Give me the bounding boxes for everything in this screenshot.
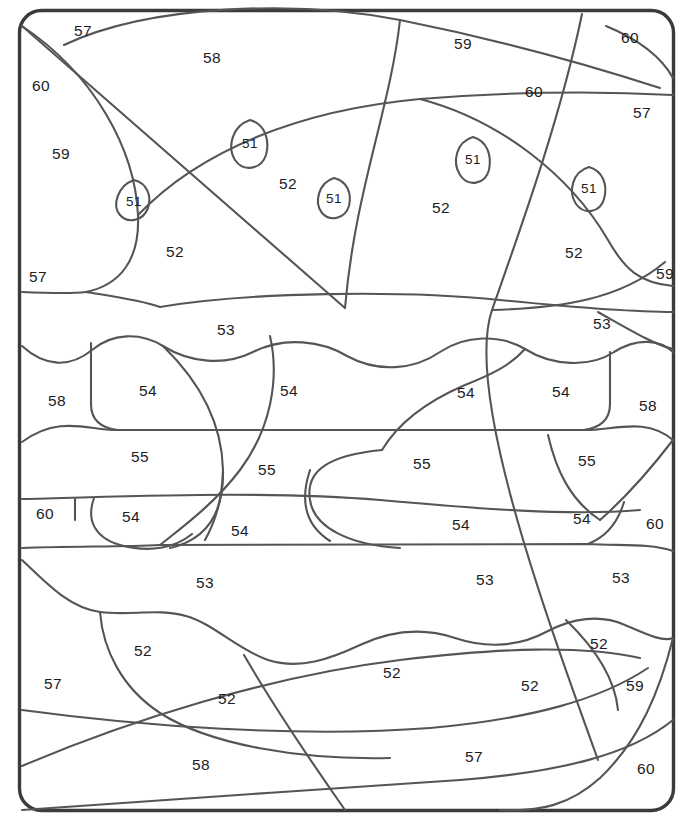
region-number-53-37: 53 bbox=[196, 574, 214, 592]
region-number-54-33: 54 bbox=[231, 522, 249, 540]
region-number-59-7: 59 bbox=[52, 145, 70, 163]
region-number-52-40: 52 bbox=[134, 642, 152, 660]
region-number-53-38: 53 bbox=[476, 571, 494, 589]
region-number-55-30: 55 bbox=[578, 452, 596, 470]
region-number-52-44: 52 bbox=[218, 690, 236, 708]
artboard bbox=[0, 0, 693, 821]
region-number-52-15: 52 bbox=[166, 243, 184, 261]
region-number-53-19: 53 bbox=[217, 321, 235, 339]
region-number-51-13: 51 bbox=[126, 194, 142, 209]
region-number-59-18: 59 bbox=[656, 265, 674, 283]
region-number-54-24: 54 bbox=[457, 384, 475, 402]
region-number-59-2: 59 bbox=[454, 35, 472, 53]
region-number-57-0: 57 bbox=[74, 22, 92, 40]
region-number-60-3: 60 bbox=[621, 29, 639, 47]
region-number-57-17: 57 bbox=[29, 268, 47, 286]
region-number-55-28: 55 bbox=[258, 461, 276, 479]
region-number-51-9: 51 bbox=[465, 152, 481, 167]
region-number-60-36: 60 bbox=[646, 515, 664, 533]
region-number-52-16: 52 bbox=[565, 244, 583, 262]
region-number-55-27: 55 bbox=[131, 448, 149, 466]
region-number-52-42: 52 bbox=[383, 664, 401, 682]
region-number-52-14: 52 bbox=[432, 199, 450, 217]
region-number-57-6: 57 bbox=[633, 104, 651, 122]
region-number-54-25: 54 bbox=[552, 383, 570, 401]
region-number-54-32: 54 bbox=[122, 508, 140, 526]
region-number-60-31: 60 bbox=[36, 505, 54, 523]
line-art bbox=[0, 0, 693, 821]
region-number-60-4: 60 bbox=[32, 77, 50, 95]
region-number-51-11: 51 bbox=[326, 191, 342, 206]
coloring-page: 5758596060605759515152515151525252575953… bbox=[0, 0, 693, 821]
region-number-54-34: 54 bbox=[452, 516, 470, 534]
region-number-58-26: 58 bbox=[639, 397, 657, 415]
region-number-60-49: 60 bbox=[637, 760, 655, 778]
region-number-59-46: 59 bbox=[626, 677, 644, 695]
region-number-53-39: 53 bbox=[612, 569, 630, 587]
region-number-58-1: 58 bbox=[203, 49, 221, 67]
outer-frame bbox=[20, 11, 674, 811]
region-number-57-48: 57 bbox=[465, 748, 483, 766]
region-number-57-43: 57 bbox=[44, 675, 62, 693]
region-number-52-45: 52 bbox=[521, 677, 539, 695]
region-number-58-47: 58 bbox=[192, 756, 210, 774]
region-number-53-20: 53 bbox=[593, 315, 611, 333]
region-number-54-22: 54 bbox=[139, 382, 157, 400]
region-outlines bbox=[22, 8, 673, 810]
region-number-52-41: 52 bbox=[590, 635, 608, 653]
region-number-51-12: 51 bbox=[581, 181, 597, 196]
region-number-52-10: 52 bbox=[279, 175, 297, 193]
region-number-58-21: 58 bbox=[48, 392, 66, 410]
region-number-54-23: 54 bbox=[280, 382, 298, 400]
region-number-54-35: 54 bbox=[573, 510, 591, 528]
region-number-60-5: 60 bbox=[525, 83, 543, 101]
region-number-55-29: 55 bbox=[413, 455, 431, 473]
region-number-51-8: 51 bbox=[242, 136, 258, 151]
